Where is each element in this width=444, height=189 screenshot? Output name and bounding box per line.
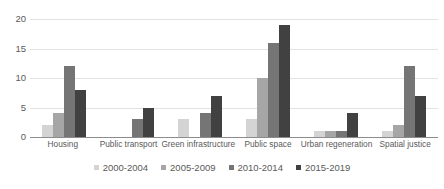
bar-slot bbox=[110, 19, 121, 137]
bar-group bbox=[302, 19, 370, 137]
bar[interactable] bbox=[415, 96, 426, 137]
bar[interactable] bbox=[246, 119, 257, 137]
x-axis-category-label: Urban regeneration bbox=[301, 140, 373, 149]
bar[interactable] bbox=[75, 90, 86, 137]
bar[interactable] bbox=[53, 113, 64, 137]
bar[interactable] bbox=[314, 131, 325, 137]
legend-label: 2005-2009 bbox=[170, 163, 215, 173]
bar-group bbox=[234, 19, 302, 137]
bar-groups bbox=[30, 19, 438, 137]
bar[interactable] bbox=[393, 125, 404, 137]
bar-slot bbox=[189, 19, 200, 137]
bar-slot bbox=[314, 19, 325, 137]
y-axis-tick-label: 0 bbox=[0, 132, 26, 142]
x-axis-category-label: Green infrastructure bbox=[161, 140, 235, 149]
legend-swatch-icon bbox=[161, 165, 166, 170]
bar-slot bbox=[75, 19, 86, 137]
x-axis-category-label: Spatial justice bbox=[372, 140, 438, 149]
legend-label: 2015-2019 bbox=[305, 163, 350, 173]
legend-item[interactable]: 2005-2009 bbox=[161, 163, 215, 173]
bar-slot bbox=[393, 19, 404, 137]
bar-slot bbox=[178, 19, 189, 137]
bar-chart: 05101520 HousingPublic transportGreen in… bbox=[0, 0, 444, 189]
legend-item[interactable]: 2000-2004 bbox=[94, 163, 148, 173]
bar[interactable] bbox=[211, 96, 222, 137]
y-axis-tick-label: 20 bbox=[0, 14, 26, 24]
bar-slot bbox=[132, 19, 143, 137]
bar[interactable] bbox=[64, 66, 75, 137]
bar[interactable] bbox=[268, 43, 279, 137]
bar-group bbox=[30, 19, 98, 137]
legend-label: 2010-2014 bbox=[238, 163, 283, 173]
bar[interactable] bbox=[178, 119, 189, 137]
bar[interactable] bbox=[347, 113, 358, 137]
bar-slot bbox=[415, 19, 426, 137]
y-axis-tick-label: 10 bbox=[0, 73, 26, 83]
bar[interactable] bbox=[382, 131, 393, 137]
y-axis-tick-label: 15 bbox=[0, 44, 26, 54]
bar[interactable] bbox=[257, 78, 268, 137]
y-axis-tick-label: 5 bbox=[0, 103, 26, 113]
legend-swatch-icon bbox=[229, 165, 234, 170]
bar-slot bbox=[211, 19, 222, 137]
chart-legend: 2000-20042005-20092010-20142015-2019 bbox=[0, 163, 444, 173]
bar[interactable] bbox=[404, 66, 415, 137]
x-axis-category-label: Public transport bbox=[96, 140, 162, 149]
bar-slot bbox=[143, 19, 154, 137]
legend-swatch-icon bbox=[296, 165, 301, 170]
legend-item[interactable]: 2010-2014 bbox=[229, 163, 283, 173]
bar-group bbox=[98, 19, 166, 137]
bar[interactable] bbox=[336, 131, 347, 137]
y-axis: 05101520 bbox=[0, 0, 26, 189]
bar-slot bbox=[336, 19, 347, 137]
bar-slot bbox=[53, 19, 64, 137]
bar-slot bbox=[325, 19, 336, 137]
bar[interactable] bbox=[132, 119, 143, 137]
x-axis-labels: HousingPublic transportGreen infrastruct… bbox=[30, 140, 438, 149]
bar-slot bbox=[121, 19, 132, 137]
bar[interactable] bbox=[279, 25, 290, 137]
bar-slot bbox=[347, 19, 358, 137]
bar-group bbox=[166, 19, 234, 137]
legend-swatch-icon bbox=[94, 165, 99, 170]
x-axis-line bbox=[30, 137, 438, 138]
legend-item[interactable]: 2015-2019 bbox=[296, 163, 350, 173]
bar-slot bbox=[268, 19, 279, 137]
bar-slot bbox=[257, 19, 268, 137]
x-axis-category-label: Housing bbox=[30, 140, 96, 149]
legend-label: 2000-2004 bbox=[103, 163, 148, 173]
bar[interactable] bbox=[42, 125, 53, 137]
bar-slot bbox=[382, 19, 393, 137]
bar-slot bbox=[200, 19, 211, 137]
bar-slot bbox=[279, 19, 290, 137]
bar[interactable] bbox=[143, 108, 154, 138]
bar-slot bbox=[246, 19, 257, 137]
bar-group bbox=[370, 19, 438, 137]
bar-slot bbox=[404, 19, 415, 137]
bar-slot bbox=[42, 19, 53, 137]
bar[interactable] bbox=[200, 113, 211, 137]
bar-slot bbox=[64, 19, 75, 137]
x-axis-category-label: Public space bbox=[235, 140, 301, 149]
bar[interactable] bbox=[325, 131, 336, 137]
